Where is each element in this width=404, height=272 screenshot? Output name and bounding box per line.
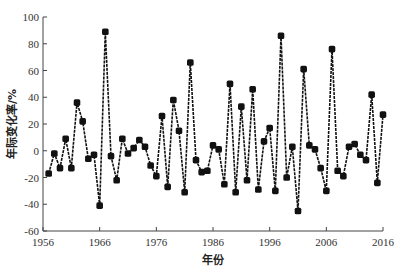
data-point-marker [85, 155, 92, 162]
series-line [49, 32, 383, 211]
data-point-marker [306, 142, 313, 149]
y-axis-title: 年际变化率/% [5, 89, 19, 159]
data-point-marker [346, 143, 353, 150]
x-tick-label: 1996 [259, 236, 282, 248]
data-point-marker [51, 150, 58, 157]
data-point-marker [334, 168, 341, 175]
data-point-marker [238, 103, 245, 110]
data-point-marker [79, 118, 86, 125]
data-point-marker [181, 189, 188, 196]
data-point-marker [278, 32, 285, 39]
data-point-marker [312, 146, 319, 153]
data-point-marker [142, 143, 149, 150]
x-axis-ticks: 1956196619761986199620062016 [32, 227, 395, 248]
data-point-marker [283, 174, 290, 181]
x-tick-label: 1976 [145, 236, 168, 248]
data-point-marker [187, 59, 194, 66]
data-point-marker [119, 135, 126, 142]
data-point-marker [368, 91, 375, 98]
data-point-marker [351, 141, 358, 148]
data-point-marker [136, 137, 143, 144]
y-tick-label: 60 [28, 65, 40, 77]
y-tick-label: -20 [24, 172, 39, 184]
data-point-marker [204, 168, 211, 175]
data-point-marker [91, 151, 98, 158]
data-point-marker [363, 157, 370, 164]
data-point-marker [221, 181, 228, 188]
data-point-marker [153, 173, 160, 180]
data-point-marker [357, 151, 364, 158]
data-point-marker [266, 125, 273, 132]
data-point-marker [68, 165, 75, 172]
y-tick-label: 20 [28, 118, 40, 130]
data-point-marker [198, 169, 205, 176]
y-tick-label: 40 [28, 91, 40, 103]
data-point-marker [193, 157, 200, 164]
data-point-marker [340, 173, 347, 180]
data-point-marker [130, 145, 137, 152]
data-point-marker [249, 86, 256, 93]
data-point-marker [108, 153, 115, 160]
data-point-marker [329, 46, 336, 53]
data-point-marker [170, 97, 177, 104]
data-point-marker [374, 180, 381, 187]
data-point-marker [113, 177, 120, 184]
data-point-marker [45, 170, 52, 177]
data-point-marker [295, 208, 302, 215]
data-point-marker [272, 188, 279, 195]
data-point-marker [57, 165, 64, 172]
y-tick-label: 80 [28, 38, 40, 50]
data-point-marker [147, 162, 154, 169]
y-tick-label: 0 [34, 145, 40, 157]
line-chart: -60-40-20020406080100 195619661976198619… [0, 0, 404, 272]
data-point-marker [62, 135, 69, 142]
data-point-marker [164, 184, 171, 191]
data-point-marker [96, 202, 103, 209]
data-point-marker [210, 142, 217, 149]
data-point-marker [323, 188, 330, 195]
data-point-marker [74, 99, 81, 106]
data-point-marker [232, 189, 239, 196]
data-point-marker [261, 138, 268, 145]
data-point-marker [255, 186, 262, 193]
data-point-marker [300, 66, 307, 73]
data-point-marker [159, 113, 166, 120]
y-tick-label: 100 [23, 11, 40, 23]
x-tick-label: 1956 [32, 236, 55, 248]
data-point-marker [215, 146, 222, 153]
x-tick-label: 1986 [202, 236, 225, 248]
data-point-marker [125, 150, 132, 157]
data-point-marker [289, 143, 296, 150]
data-point-marker [102, 28, 109, 35]
x-axis-title: 年份 [202, 253, 225, 267]
data-point-marker [244, 177, 251, 184]
data-point-marker [176, 127, 183, 134]
data-point-marker [227, 81, 234, 88]
x-tick-label: 2006 [315, 236, 338, 248]
y-tick-label: -40 [24, 198, 39, 210]
x-tick-label: 2016 [372, 236, 395, 248]
data-point-marker [317, 165, 324, 172]
x-tick-label: 1966 [89, 236, 112, 248]
data-point-marker [380, 111, 387, 118]
